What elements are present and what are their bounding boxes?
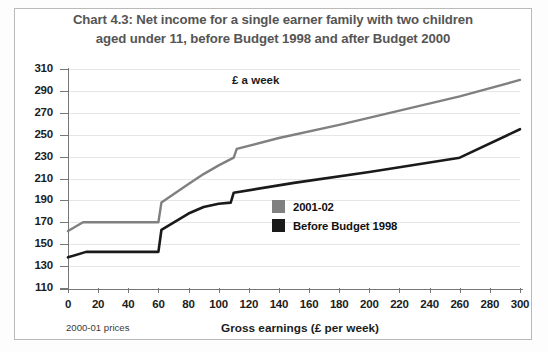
- chart-title-line-2: aged under 11, before Budget 1998 and af…: [96, 31, 450, 46]
- grid-line: [68, 244, 520, 245]
- x-tick-mark: [98, 288, 99, 293]
- legend-swatch-2001-02: [272, 200, 285, 213]
- x-tick-label: 300: [500, 298, 540, 310]
- legend-item-2001-02: 2001-02: [272, 200, 397, 213]
- y-tick-mark: [60, 157, 68, 158]
- chart-figure: Chart 4.3: Net income for a single earne…: [0, 0, 548, 352]
- y-tick-label: 250: [19, 128, 53, 140]
- y-tick-mark: [60, 113, 68, 114]
- grid-line: [68, 69, 520, 70]
- y-tick-mark: [60, 244, 68, 245]
- x-tick-mark: [309, 288, 310, 293]
- legend-item-before-budget-1998: Before Budget 1998: [272, 219, 397, 232]
- x-tick-mark: [128, 288, 129, 293]
- y-tick-mark: [60, 288, 68, 289]
- x-tick-mark: [219, 288, 220, 293]
- y-tick-label: 130: [19, 259, 53, 271]
- chart-title-line-1: Chart 4.3: Net income for a single earne…: [73, 12, 473, 27]
- price-basis-note: 2000-01 prices: [66, 322, 129, 333]
- x-tick-mark: [279, 288, 280, 293]
- y-tick-mark: [60, 135, 68, 136]
- x-tick-mark: [339, 288, 340, 293]
- y-tick-mark: [60, 222, 68, 223]
- y-tick-label: 210: [19, 172, 53, 184]
- y-tick-label: 270: [19, 106, 53, 118]
- grid-line: [68, 135, 520, 136]
- y-tick-label: 290: [19, 84, 53, 96]
- x-tick-mark: [68, 288, 69, 293]
- x-tick-mark: [430, 288, 431, 293]
- y-axis-line: [68, 68, 69, 290]
- y-tick-label: 170: [19, 215, 53, 227]
- y-tick-mark: [60, 69, 68, 70]
- plot-area: [68, 69, 520, 288]
- y-axis-unit-label: £ a week: [232, 74, 279, 86]
- legend-label-2001-02: 2001-02: [293, 201, 334, 213]
- grid-line: [68, 113, 520, 114]
- y-tick-label: 190: [19, 193, 53, 205]
- x-tick-mark: [369, 288, 370, 293]
- x-tick-mark: [249, 288, 250, 293]
- y-tick-label: 230: [19, 150, 53, 162]
- x-tick-mark: [189, 288, 190, 293]
- legend-label-before-budget-1998: Before Budget 1998: [293, 220, 397, 232]
- y-tick-mark: [60, 91, 68, 92]
- x-tick-mark: [460, 288, 461, 293]
- grid-line: [68, 179, 520, 180]
- grid-line: [68, 266, 520, 267]
- grid-line: [68, 157, 520, 158]
- x-tick-mark: [520, 288, 521, 293]
- x-axis-line: [60, 289, 523, 290]
- x-tick-mark: [399, 288, 400, 293]
- y-tick-label: 150: [19, 237, 53, 249]
- grid-line: [68, 91, 520, 92]
- x-tick-mark: [158, 288, 159, 293]
- legend-swatch-before-budget-1998: [272, 219, 285, 232]
- x-tick-mark: [490, 288, 491, 293]
- y-tick-mark: [60, 200, 68, 201]
- y-tick-mark: [60, 179, 68, 180]
- chart-legend: 2001-02 Before Budget 1998: [272, 200, 397, 238]
- x-axis-title: Gross earnings (£ per week): [160, 321, 440, 335]
- y-tick-label: 310: [19, 62, 53, 74]
- chart-title: Chart 4.3: Net income for a single earne…: [30, 10, 516, 48]
- y-tick-mark: [60, 266, 68, 267]
- y-tick-label: 110: [19, 281, 53, 293]
